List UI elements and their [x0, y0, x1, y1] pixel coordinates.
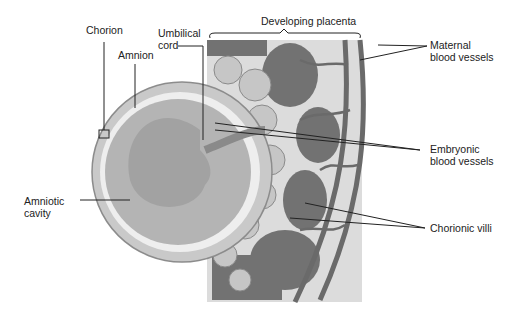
label-umbilical-cord: Umbilical cord	[158, 27, 201, 51]
label-developing-placenta: Developing placenta	[261, 15, 356, 27]
label-amniotic-cavity: Amniotic cavity	[24, 195, 64, 219]
label-embryonic-blood-vessels: Embryonic blood vessels	[430, 143, 494, 167]
label-amnion: Amnion	[118, 49, 154, 61]
label-chorionic-villi: Chorionic villi	[430, 222, 492, 234]
embryo-drawing	[128, 118, 210, 207]
label-maternal-blood-vessels: Maternal blood vessels	[430, 39, 494, 63]
label-chorion: Chorion	[86, 24, 123, 36]
